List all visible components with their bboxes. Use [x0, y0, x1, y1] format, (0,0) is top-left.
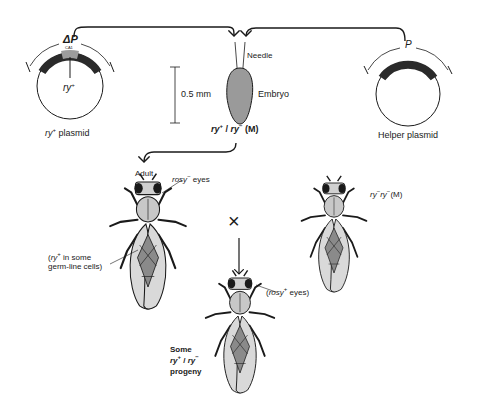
mate-fly [302, 176, 367, 292]
adult-eyes-label: rosy− eyes [172, 176, 210, 185]
adult-label: Adult [135, 170, 153, 179]
mate-genotype: ry−ry−(M) [370, 191, 402, 200]
progeny-fly [206, 270, 274, 393]
embryo [227, 68, 253, 124]
cross-symbol: × [228, 210, 240, 232]
embryo-genotype: ry+ / ry− (M) [211, 125, 259, 135]
ry-plus-plasmid-caption: ry+ plasmid [45, 129, 90, 139]
right-plasmid-arrow [246, 28, 405, 41]
p-element-label: P [405, 39, 412, 50]
diagram-canvas [0, 0, 477, 395]
ca1-label: CA1 [65, 46, 73, 50]
helper-plasmid [364, 48, 452, 126]
adult-fly [110, 174, 186, 309]
left-plasmid-arrow [74, 27, 234, 37]
ry-plus-insert-label: ry+ [63, 82, 75, 93]
embryo-label: Embryo [258, 90, 289, 100]
progeny-label: Somery+ / ry−progeny [170, 345, 202, 377]
scale-bar [170, 67, 180, 123]
helper-plasmid-caption: Helper plasmid [378, 131, 438, 141]
delta-p-label: ΔP [63, 33, 78, 45]
embryo-to-adult-arrow [144, 143, 236, 162]
progeny-eyes-label: (rosy+ eyes) [266, 289, 309, 298]
germline-note: (ry+ in somegerm-line cells) [48, 254, 102, 272]
scale-label: 0.5 mm [181, 90, 211, 100]
needle-label: Needle [247, 52, 272, 61]
